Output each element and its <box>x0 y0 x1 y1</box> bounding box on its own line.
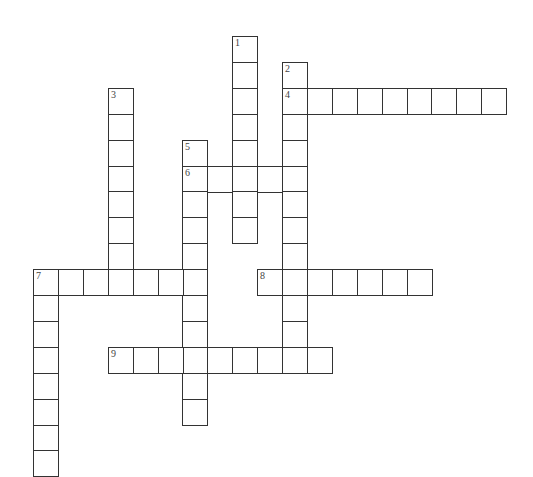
clue-number: 3 <box>111 89 116 100</box>
crossword-cell[interactable] <box>133 347 159 374</box>
crossword-cell[interactable]: 1 <box>232 36 258 63</box>
crossword-cell[interactable] <box>33 450 59 477</box>
crossword-cell[interactable] <box>182 295 208 322</box>
crossword-cell[interactable] <box>133 269 159 296</box>
crossword-cell[interactable] <box>108 140 134 167</box>
crossword-cell[interactable] <box>407 269 433 296</box>
crossword-cell[interactable] <box>108 114 134 141</box>
crossword-cell[interactable] <box>232 347 258 374</box>
crossword-cell[interactable] <box>33 321 59 348</box>
crossword-cell[interactable] <box>182 399 208 426</box>
crossword-cell[interactable] <box>282 347 308 374</box>
crossword-cell[interactable] <box>357 88 383 115</box>
crossword-cell[interactable]: 7 <box>33 269 59 296</box>
crossword-cell[interactable] <box>332 88 358 115</box>
crossword-cell[interactable] <box>207 166 233 193</box>
crossword-cell[interactable] <box>232 166 258 193</box>
crossword-cell[interactable] <box>282 217 308 244</box>
crossword-cell[interactable] <box>182 243 208 270</box>
crossword-cell[interactable] <box>207 347 233 374</box>
crossword-cell[interactable] <box>108 217 134 244</box>
crossword-cell[interactable] <box>108 166 134 193</box>
crossword-cell[interactable]: 5 <box>182 140 208 167</box>
crossword-cell[interactable]: 3 <box>108 88 134 115</box>
crossword-cell[interactable]: 6 <box>182 166 208 193</box>
crossword-cell[interactable] <box>456 88 482 115</box>
crossword-cell[interactable] <box>232 191 258 218</box>
crossword-cell[interactable] <box>33 347 59 374</box>
crossword-cell[interactable] <box>382 269 408 296</box>
crossword-cell[interactable]: 8 <box>257 269 283 296</box>
crossword-cell[interactable] <box>58 269 84 296</box>
crossword-cell[interactable] <box>108 191 134 218</box>
crossword-cell[interactable] <box>232 140 258 167</box>
crossword-cell[interactable] <box>182 217 208 244</box>
crossword-cell[interactable] <box>232 88 258 115</box>
clue-number: 8 <box>260 270 265 281</box>
crossword-cell[interactable] <box>257 166 283 193</box>
crossword-cell[interactable] <box>33 373 59 400</box>
crossword-cell[interactable] <box>282 269 308 296</box>
crossword-cell[interactable] <box>182 373 208 400</box>
crossword-cell[interactable] <box>282 295 308 322</box>
crossword-cell[interactable] <box>357 269 383 296</box>
crossword-cell[interactable]: 4 <box>282 88 308 115</box>
crossword-cell[interactable]: 2 <box>282 62 308 89</box>
crossword-cell[interactable] <box>33 425 59 452</box>
crossword-cell[interactable] <box>182 347 208 374</box>
crossword-cell[interactable] <box>407 88 433 115</box>
crossword-cell[interactable] <box>158 269 184 296</box>
crossword-cell[interactable]: 9 <box>108 347 134 374</box>
crossword-cell[interactable] <box>307 269 333 296</box>
clue-number: 5 <box>185 141 190 152</box>
crossword-cell[interactable] <box>33 399 59 426</box>
crossword-cell[interactable] <box>158 347 184 374</box>
crossword-cell[interactable] <box>83 269 109 296</box>
crossword-cell[interactable] <box>282 321 308 348</box>
clue-number: 2 <box>285 63 290 74</box>
crossword-cell[interactable] <box>232 114 258 141</box>
crossword-cell[interactable] <box>33 295 59 322</box>
crossword-cell[interactable] <box>282 114 308 141</box>
crossword-cell[interactable] <box>282 191 308 218</box>
crossword-cell[interactable] <box>382 88 408 115</box>
crossword-cell[interactable] <box>282 243 308 270</box>
clue-number: 4 <box>285 89 290 100</box>
crossword-cell[interactable] <box>182 269 208 296</box>
clue-number: 1 <box>235 37 240 48</box>
crossword-cell[interactable] <box>257 347 283 374</box>
crossword-cell[interactable] <box>182 321 208 348</box>
clue-number: 7 <box>36 270 41 281</box>
clue-number: 9 <box>111 348 116 359</box>
crossword-cell[interactable] <box>431 88 457 115</box>
clue-number: 6 <box>185 167 190 178</box>
crossword-cell[interactable] <box>232 62 258 89</box>
crossword-cell[interactable] <box>282 140 308 167</box>
crossword-cell[interactable] <box>108 243 134 270</box>
crossword-cell[interactable] <box>307 347 333 374</box>
crossword-cell[interactable] <box>332 269 358 296</box>
crossword-cell[interactable] <box>307 88 333 115</box>
crossword-cell[interactable] <box>182 191 208 218</box>
crossword-cell[interactable] <box>282 166 308 193</box>
crossword-cell[interactable] <box>108 269 134 296</box>
crossword-cell[interactable] <box>481 88 507 115</box>
crossword-cell[interactable] <box>232 217 258 244</box>
